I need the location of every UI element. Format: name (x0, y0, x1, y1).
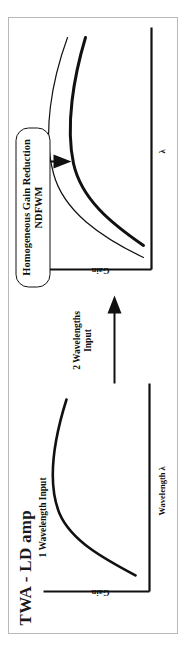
callout-line-1: Homogeneous Gain Reduction (20, 139, 31, 276)
up-arrow-icon (101, 293, 127, 385)
y-axis-label-double: Gain (91, 265, 109, 275)
callout-line-2: NDFWM (32, 134, 44, 280)
transition-label-line2: Input (82, 329, 92, 352)
y-axis-label-single: Gain (91, 587, 109, 597)
curve-label-single-wavelength: 1 Wavelength Input (37, 477, 47, 557)
transition-label-line1: 2 Wavelengths (71, 311, 81, 370)
figure-canvas: TWA - LD amp Gain Wavelength λ (9, 18, 177, 633)
rotated-figure-stage: TWA - LD amp Gain Wavelength λ (9, 18, 177, 633)
gain-curve-original (48, 37, 143, 257)
panel-single-wavelength: Gain Wavelength λ 1 Wavelength Input (9, 371, 177, 633)
x-axis-label-double: λ (156, 149, 166, 153)
callout-box: Homogeneous Gain Reduction NDFWM (15, 127, 50, 287)
gain-curve-reduced (70, 37, 143, 245)
transition-label: 2 Wavelengths Input (71, 297, 92, 383)
gain-curve-single (52, 399, 135, 575)
figure-frame: TWA - LD amp Gain Wavelength λ (8, 17, 178, 634)
x-axis-label-single: Wavelength λ (156, 466, 166, 515)
